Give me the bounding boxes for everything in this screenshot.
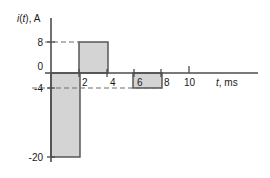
y-axis-label: i(t), A (17, 13, 41, 24)
bar-interval-2-4 (79, 42, 108, 73)
x-tick-label-4: 4 (110, 77, 116, 88)
waveform-bars (51, 42, 162, 157)
waveform-plot: 2 4 6 8 10 8 0 -4 -20 i(t), A t, ms (0, 0, 270, 178)
y-tick-labels: 8 0 -4 -20 (29, 37, 44, 163)
y-tick-label-minus-20: -20 (29, 152, 44, 163)
axis-titles: i(t), A t, ms (17, 13, 238, 88)
x-tick-label-10: 10 (184, 77, 196, 88)
x-axis-label-unit: , ms (219, 77, 238, 88)
x-tick-label-6: 6 (137, 77, 143, 88)
bar-interval-0-2 (51, 73, 80, 157)
x-tick-labels: 2 4 6 8 10 (82, 77, 196, 88)
y-tick-label-minus-4: -4 (34, 83, 43, 94)
y-tick-label-8: 8 (37, 37, 43, 48)
x-axis-label: t, ms (216, 77, 238, 88)
y-axis-label-unit: , A (29, 13, 41, 24)
y-tick-label-0: 0 (37, 61, 43, 72)
current-waveform-figure: 2 4 6 8 10 8 0 -4 -20 i(t), A t, ms (0, 0, 270, 178)
x-tick-label-8: 8 (164, 77, 170, 88)
x-tick-label-2: 2 (82, 77, 88, 88)
